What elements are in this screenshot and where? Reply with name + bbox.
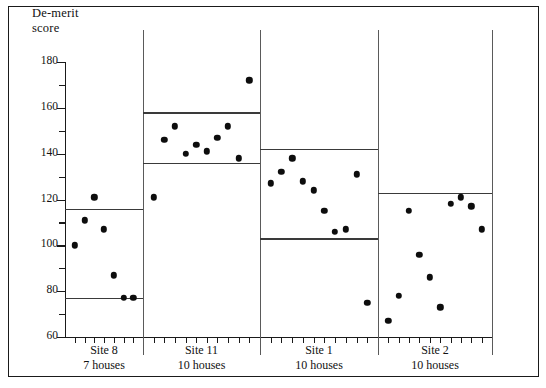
- data-point: [289, 155, 295, 161]
- reference-line: [260, 238, 378, 239]
- data-point: [246, 77, 252, 83]
- data-point: [437, 304, 443, 310]
- data-point: [427, 274, 433, 280]
- group-label-houses: 10 houses: [260, 358, 378, 373]
- data-point: [416, 251, 422, 257]
- chart-figure: De-merit score 6080100120140160180 Site …: [0, 0, 546, 388]
- data-point: [447, 201, 453, 207]
- y-axis-line: [65, 62, 66, 338]
- group-separator-line: [260, 30, 261, 355]
- data-point: [278, 169, 284, 175]
- y-axis-tick: [57, 200, 65, 201]
- y-axis-tick: [57, 245, 65, 246]
- group-label-site-8: Site 87 houses: [65, 343, 143, 373]
- data-point: [130, 295, 136, 301]
- data-point: [300, 178, 306, 184]
- y-axis-tick-label: 120: [28, 192, 58, 204]
- data-point: [72, 242, 78, 248]
- group-label-houses: 10 houses: [143, 358, 260, 373]
- group-label-site-2: Site 210 houses: [378, 343, 492, 373]
- group-separator-line: [492, 30, 493, 355]
- group-label-site-1: Site 110 houses: [260, 343, 378, 373]
- data-point: [120, 295, 126, 301]
- data-point: [150, 194, 156, 200]
- group-label-name: Site 8: [65, 343, 143, 358]
- data-point: [458, 194, 464, 200]
- y-axis-tick: [57, 154, 65, 155]
- y-axis-tick-label: 160: [28, 100, 58, 112]
- y-axis-minor-tick: [59, 314, 65, 315]
- data-point: [364, 299, 370, 305]
- y-axis-tick: [57, 337, 65, 338]
- reference-line: [143, 112, 260, 113]
- data-point: [268, 180, 274, 186]
- data-point: [193, 141, 199, 147]
- group-label-name: Site 11: [143, 343, 260, 358]
- y-axis-tick-label: 140: [28, 146, 58, 158]
- data-point: [478, 226, 484, 232]
- reference-line: [378, 193, 492, 194]
- group-separator-line: [143, 30, 144, 355]
- y-axis-tick-label: 180: [28, 54, 58, 66]
- group-label-site-11: Site 1110 houses: [143, 343, 260, 373]
- data-point: [468, 203, 474, 209]
- group-label-name: Site 2: [378, 343, 492, 358]
- data-point: [236, 155, 242, 161]
- y-axis-tick: [57, 108, 65, 109]
- y-axis-tick: [57, 62, 65, 63]
- data-point: [101, 226, 107, 232]
- y-axis-minor-tick: [59, 177, 65, 178]
- y-axis-minor-tick: [59, 85, 65, 86]
- data-point: [111, 272, 117, 278]
- data-point: [396, 293, 402, 299]
- data-point: [214, 134, 220, 140]
- data-point: [91, 194, 97, 200]
- data-point: [385, 318, 391, 324]
- data-point: [182, 150, 188, 156]
- y-axis-tick: [57, 291, 65, 292]
- y-axis-minor-tick: [59, 131, 65, 132]
- data-point: [353, 171, 359, 177]
- data-point: [310, 187, 316, 193]
- reference-line: [143, 163, 260, 164]
- group-label-houses: 7 houses: [65, 358, 143, 373]
- reference-line: [260, 149, 378, 150]
- reference-line: [65, 209, 143, 210]
- data-point: [225, 123, 231, 129]
- y-axis-tick-label: 80: [28, 283, 58, 295]
- data-point: [81, 217, 87, 223]
- data-point: [343, 226, 349, 232]
- group-label-houses: 10 houses: [378, 358, 492, 373]
- x-axis-line: [65, 337, 492, 338]
- data-point: [161, 137, 167, 143]
- data-point: [332, 228, 338, 234]
- data-point: [172, 123, 178, 129]
- data-point: [204, 148, 210, 154]
- y-axis-tick-label: 60: [28, 329, 58, 341]
- group-label-name: Site 1: [260, 343, 378, 358]
- data-point: [321, 208, 327, 214]
- y-axis-minor-tick: [59, 268, 65, 269]
- plot-area: 6080100120140160180 Site 87 housesSite 1…: [0, 0, 546, 388]
- y-axis-minor-tick: [59, 222, 65, 223]
- data-point: [406, 208, 412, 214]
- y-axis-tick-label: 100: [28, 237, 58, 249]
